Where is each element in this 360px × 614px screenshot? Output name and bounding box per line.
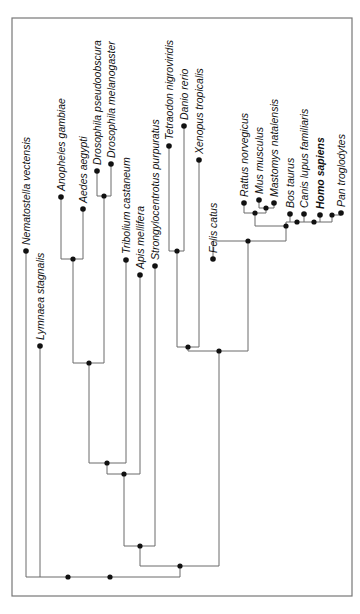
leaf-node: [181, 123, 187, 129]
leaf-node: [58, 194, 64, 200]
node-bilateria: [177, 563, 182, 568]
taxon-label: Anopheles gambiae: [55, 98, 67, 192]
node-laurasia-1: [294, 219, 299, 224]
leaf-node: [338, 210, 344, 216]
taxon-label: Pan troglodytes: [335, 133, 347, 207]
node-diptera: [86, 360, 91, 365]
node-laurasia-2: [311, 219, 316, 224]
node-drosophila: [101, 193, 106, 198]
taxon-label: Apis mellifera: [134, 206, 146, 270]
leaf-node: [301, 211, 307, 217]
node-mus-mastomys: [263, 205, 268, 210]
node-invert-echino: [137, 543, 142, 548]
node-mammals: [245, 238, 250, 243]
leaf-node: [23, 248, 29, 254]
leaf-node: [152, 263, 158, 269]
leaf-node: [196, 157, 202, 163]
node-mammal-core: [283, 223, 288, 228]
node-fish-frog: [185, 344, 190, 349]
leaf-node: [317, 212, 323, 218]
internal-nodes: [65, 193, 334, 579]
taxon-label: Xenopus tropicalis: [193, 67, 205, 155]
node-primates: [329, 212, 334, 217]
node-mosquitoes: [70, 256, 75, 261]
taxon-label: Strongylocentrotus purpuratus: [149, 119, 161, 260]
taxon-label: Aedes aegypti: [77, 136, 89, 204]
leaf-node: [123, 257, 129, 263]
leaf-node: [287, 211, 293, 217]
phylogenetic-tree: Nematostella vectensisLymnaea stagnalisA…: [0, 0, 360, 614]
taxon-label: Homo sapiens: [314, 137, 326, 209]
leaf-node: [80, 206, 86, 212]
leaf-node: [137, 272, 143, 278]
node-insects: [121, 471, 126, 476]
taxon-label: Mus musculus: [253, 126, 265, 194]
taxon-label: Canis lupus familiaris: [298, 108, 310, 208]
taxon-label: Bos taurus: [284, 157, 296, 208]
taxon-label: Drosophila pseudoobscura: [91, 40, 103, 165]
node-root-2: [107, 574, 112, 579]
taxon-label: Nematostella vectensis: [20, 136, 32, 245]
node-holometabola: [104, 460, 109, 465]
leaf-node: [256, 197, 262, 203]
taxon-label: Drosophila melanogaster: [105, 41, 117, 158]
leaf-node: [37, 343, 43, 349]
leaf-node: [241, 200, 247, 206]
taxon-label: Felis catus: [207, 202, 219, 253]
node-vertebrates: [216, 348, 221, 353]
leaf-node: [166, 143, 172, 149]
leaf-node: [210, 256, 216, 262]
node-root-1: [65, 574, 70, 579]
node-rodents: [252, 210, 257, 215]
leaf-node: [108, 161, 114, 167]
taxon-label: Danio rerio: [178, 68, 190, 120]
taxon-label: Tribolium castaneum: [120, 157, 132, 254]
taxon-label: Lymnaea stagnalis: [34, 252, 46, 340]
taxon-label: Tetraodon nigroviridis: [163, 39, 175, 140]
node-fish: [174, 248, 179, 253]
taxon-label: Rattus norvegicus: [238, 112, 250, 197]
leaf-node: [271, 200, 277, 206]
leaf-node: [94, 168, 100, 174]
taxon-label: Mastomys natalensis: [268, 98, 280, 197]
